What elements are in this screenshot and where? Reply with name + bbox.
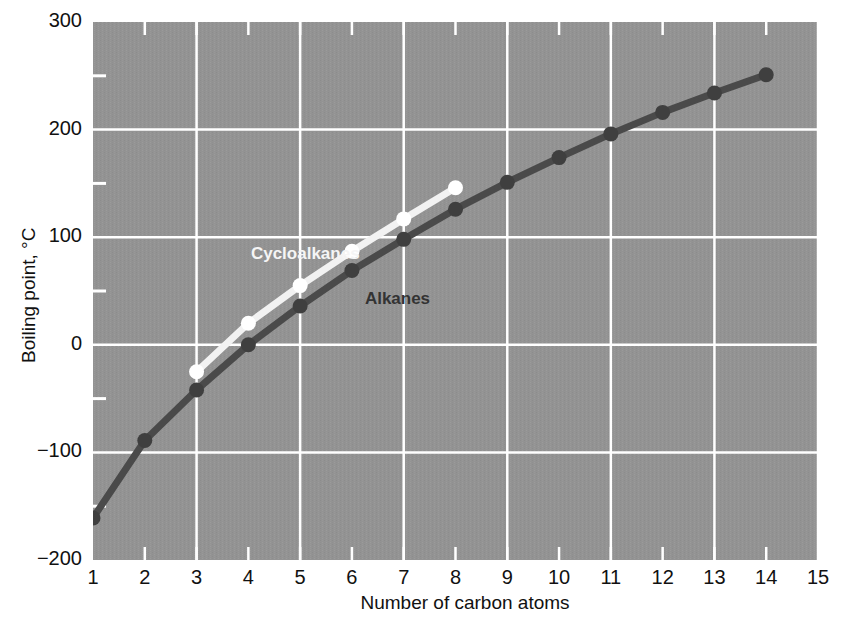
data-point	[707, 86, 722, 101]
data-point	[189, 364, 204, 379]
x-tick-label: 2	[120, 566, 170, 589]
y-tick-label: 300	[0, 9, 82, 32]
data-point	[344, 263, 359, 278]
x-tick-label: 1	[68, 566, 118, 589]
series-annotation-alkanes: Alkanes	[365, 289, 430, 309]
data-point	[241, 337, 256, 352]
data-point	[759, 67, 774, 82]
data-point	[137, 433, 152, 448]
x-tick-label: 13	[689, 566, 739, 589]
data-point	[293, 278, 308, 293]
x-tick-label: 3	[172, 566, 222, 589]
y-axis-title: Boiling point, °C	[18, 228, 40, 363]
x-tick-label: 4	[223, 566, 273, 589]
x-tick-label: 14	[741, 566, 791, 589]
chart-figure: 3002001000−100−200 123456789101112131415…	[0, 0, 844, 617]
x-tick-label: 6	[327, 566, 377, 589]
y-tick-label: 0	[0, 332, 82, 355]
x-tick-label: 10	[534, 566, 584, 589]
data-point	[500, 175, 515, 190]
data-point	[448, 180, 463, 195]
data-point	[293, 299, 308, 314]
y-tick-label: 200	[0, 117, 82, 140]
x-axis-title: Number of carbon atoms	[361, 592, 570, 614]
data-point	[552, 150, 567, 165]
data-point	[396, 232, 411, 247]
x-tick-label: 7	[379, 566, 429, 589]
plot-area-background	[93, 22, 818, 560]
data-point	[189, 382, 204, 397]
data-point	[86, 511, 101, 526]
series-annotation-cycloalkanes: Cycloalkanes	[251, 244, 360, 264]
x-tick-label: 9	[482, 566, 532, 589]
data-point	[396, 211, 411, 226]
x-tick-label: 8	[431, 566, 481, 589]
y-tick-label: −100	[0, 439, 82, 462]
x-tick-label: 15	[793, 566, 843, 589]
data-point	[655, 105, 670, 120]
y-tick-label: 100	[0, 224, 82, 247]
x-tick-label: 11	[586, 566, 636, 589]
data-point	[603, 126, 618, 141]
data-point	[448, 202, 463, 217]
data-point	[241, 316, 256, 331]
x-tick-label: 12	[638, 566, 688, 589]
x-tick-label: 5	[275, 566, 325, 589]
